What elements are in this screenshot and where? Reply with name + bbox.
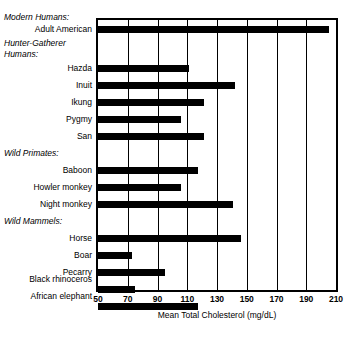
bar-rows bbox=[98, 20, 336, 290]
bar-adult-american bbox=[98, 26, 329, 33]
category-label-san: San bbox=[0, 131, 92, 141]
category-label-black-rhinoceros: Black rhinoceros bbox=[0, 274, 92, 284]
bar-baboon bbox=[98, 167, 198, 174]
x-axis-title: Mean Total Cholesterol (mg/dL) bbox=[96, 310, 338, 321]
x-tick-70: 70 bbox=[123, 294, 132, 305]
group-label-modern-humans: Modern Humans: bbox=[4, 12, 96, 22]
bar-black-rhinoceros bbox=[98, 286, 135, 293]
bar-row bbox=[98, 61, 336, 78]
bar-row bbox=[98, 129, 336, 146]
category-label-pygmy: Pygmy bbox=[0, 114, 92, 124]
bar-san bbox=[98, 133, 204, 140]
category-label-baboon: Baboon bbox=[0, 165, 92, 175]
x-tick-190: 190 bbox=[299, 294, 313, 305]
group-label-wild-primates: Wild Primates: bbox=[4, 148, 96, 158]
bar-hazda bbox=[98, 65, 189, 72]
category-label-african-elephant: African elephant bbox=[0, 291, 92, 301]
x-tick-210: 210 bbox=[329, 294, 343, 305]
x-tick-150: 150 bbox=[240, 294, 254, 305]
bar-horse bbox=[98, 235, 241, 242]
bar-pecarry bbox=[98, 269, 165, 276]
cholesterol-bar-chart: Modern Humans: Adult American Hunter-Gat… bbox=[0, 0, 360, 349]
category-label-night-monkey: Night monkey bbox=[0, 199, 92, 209]
x-tick-130: 130 bbox=[210, 294, 224, 305]
bar-ikung bbox=[98, 99, 204, 106]
plot-area bbox=[96, 18, 338, 292]
bar-row bbox=[98, 22, 336, 39]
bar-boar bbox=[98, 252, 132, 259]
bar-row bbox=[98, 112, 336, 129]
bar-row bbox=[98, 78, 336, 95]
group-label-hunter-gatherer-line2: Humans: bbox=[4, 49, 96, 59]
bar-row bbox=[98, 163, 336, 180]
category-label-adult-american: Adult American bbox=[0, 24, 92, 34]
bar-howler-monkey bbox=[98, 184, 181, 191]
bar-row bbox=[98, 248, 336, 265]
group-label-wild-mammals: Wild Mammels: bbox=[4, 216, 96, 226]
x-tick-110: 110 bbox=[180, 294, 194, 305]
bar-row bbox=[98, 265, 336, 282]
category-label-hazda: Hazda bbox=[0, 63, 92, 73]
group-label-hunter-gatherer-line1: Hunter-Gatherer bbox=[4, 38, 96, 48]
x-axis-tick-labels: 507090110130150170190210 bbox=[96, 294, 338, 308]
category-label-ikung: Ikung bbox=[0, 97, 92, 107]
x-tick-90: 90 bbox=[153, 294, 162, 305]
category-label-horse: Horse bbox=[0, 233, 92, 243]
bar-pygmy bbox=[98, 116, 181, 123]
bar-row bbox=[98, 180, 336, 197]
bar-inuit bbox=[98, 82, 235, 89]
bar-night-monkey bbox=[98, 201, 233, 208]
category-label-boar: Boar bbox=[0, 250, 92, 260]
bar-row bbox=[98, 95, 336, 112]
x-tick-170: 170 bbox=[269, 294, 283, 305]
category-label-inuit: Inuit bbox=[0, 80, 92, 90]
bar-row bbox=[98, 197, 336, 214]
x-tick-50: 50 bbox=[93, 294, 102, 305]
category-label-howler-monkey: Howler monkey bbox=[0, 182, 92, 192]
bar-row bbox=[98, 231, 336, 248]
